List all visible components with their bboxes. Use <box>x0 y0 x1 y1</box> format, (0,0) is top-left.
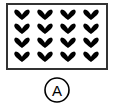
heart-icon <box>83 9 98 20</box>
heart-icon <box>14 37 29 48</box>
heart-icon <box>60 23 75 34</box>
heart-icon <box>37 9 52 20</box>
option-label: A <box>52 82 62 99</box>
heart-icon <box>60 51 75 62</box>
heart-icon <box>14 23 29 34</box>
heart-icon <box>14 51 29 62</box>
heart-icon <box>37 51 52 62</box>
heart-icon <box>83 51 98 62</box>
heart-icon <box>60 37 75 48</box>
heart-icon <box>14 9 29 20</box>
figure: A <box>0 0 114 106</box>
heart-grid <box>14 9 98 62</box>
heart-icon <box>83 23 98 34</box>
heart-icon <box>60 9 75 20</box>
heart-icon <box>83 37 98 48</box>
heart-icon <box>37 23 52 34</box>
heart-icon <box>37 37 52 48</box>
